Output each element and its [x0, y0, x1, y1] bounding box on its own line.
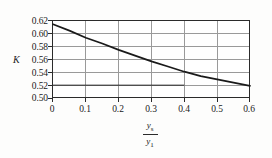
y-tick-label-slot: 0.52	[14, 81, 48, 91]
y-tick-label-slot: 0.58	[14, 42, 48, 52]
curve-svg-layer	[53, 21, 250, 98]
y-tick-label-slot: 0.60	[14, 29, 48, 39]
x-tick-label: 0.4	[169, 104, 199, 114]
x-tick-label: 0.1	[70, 104, 100, 114]
y-tick-label: 0.60	[18, 29, 48, 39]
x-tick-mark	[184, 98, 185, 102]
y-tick-label: 0.56	[18, 55, 48, 65]
x-tick-mark	[217, 98, 218, 102]
x-axis-title-numerator-sub: s	[151, 125, 154, 133]
x-tick-mark	[249, 98, 250, 102]
y-tick-label: 0.62	[18, 16, 48, 26]
x-tick-mark	[118, 98, 119, 102]
x-tick-mark	[151, 98, 152, 102]
y-tick-label-slot: 0.54	[14, 68, 48, 78]
x-axis-title-denominator-sub: 1	[150, 141, 154, 149]
y-tick-label: 0.58	[18, 42, 48, 52]
y-tick-label: 0.50	[18, 93, 48, 103]
x-tick-mark	[52, 98, 53, 102]
x-axis-title-denominator: y1	[128, 136, 172, 150]
x-tick-label: 0	[37, 104, 67, 114]
x-tick-mark	[85, 98, 86, 102]
y-tick-label: 0.54	[18, 68, 48, 78]
y-tick-label-slot: 0.56	[14, 55, 48, 65]
x-axis-title-numerator: ys	[128, 120, 172, 134]
x-tick-label: 0.2	[103, 104, 133, 114]
y-tick-label-slot: 0.50	[14, 93, 48, 103]
data-curve-k	[53, 24, 250, 86]
x-tick-label: 0.6	[234, 104, 264, 114]
y-tick-label: 0.52	[18, 81, 48, 91]
y-tick-label-slot: 0.62	[14, 16, 48, 26]
x-axis-title: ys y1	[128, 120, 172, 150]
figure-container: K 0.62 0.60 0.58 0.56 0.54 0.52 0.50	[0, 0, 272, 158]
plot-area	[52, 20, 250, 98]
x-tick-label: 0.5	[202, 104, 232, 114]
x-tick-label: 0.3	[136, 104, 166, 114]
